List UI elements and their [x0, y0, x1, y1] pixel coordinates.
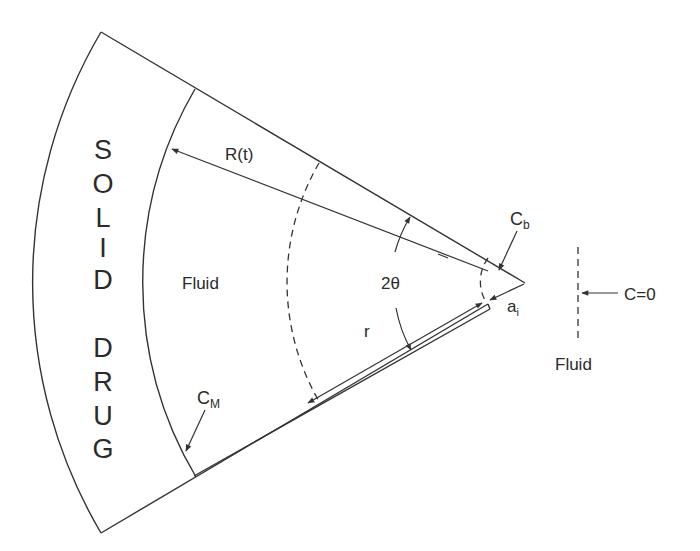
radius-r-dashed-arc — [287, 163, 320, 403]
solid-drug-label: S O L I D D R U G — [92, 135, 113, 464]
letter-I: I — [99, 233, 107, 263]
wedge-diagram: S O L I D D R U G Fluid Fluid R(t) r 2θ … — [0, 0, 700, 551]
matrix-conc-base: C — [197, 388, 210, 408]
wedge-upper-edge — [101, 32, 525, 283]
letter-R: R — [93, 367, 113, 397]
letter-D2: D — [93, 333, 113, 363]
wedge-lower-edge-tip — [488, 304, 490, 309]
wedge-lower-inner-edge — [194, 309, 490, 476]
radius-r-arrow — [308, 303, 482, 403]
boundary-condition-label: C=0 — [624, 285, 656, 304]
letter-S: S — [94, 135, 112, 165]
outer-arc — [33, 32, 101, 533]
letter-G: G — [92, 434, 113, 464]
tip-radius-label: ai — [507, 297, 519, 318]
letter-D: D — [93, 265, 113, 295]
letter-L: L — [95, 203, 110, 233]
matrix-conc-sub: M — [210, 397, 220, 411]
angle-label: 2θ — [381, 274, 400, 293]
tip-radius-sub: i — [516, 306, 518, 318]
letter-U: U — [93, 401, 113, 431]
fluid-inner-label: Fluid — [182, 274, 219, 293]
bulk-conc-arrow — [499, 231, 517, 270]
matrix-conc-label: CM — [197, 388, 220, 411]
bulk-conc-label: Cb — [510, 209, 530, 232]
matrix-conc-arrow — [186, 410, 205, 451]
bulk-conc-sub: b — [523, 218, 530, 232]
fluid-outer-label: Fluid — [555, 355, 592, 374]
angle-arc-lower — [396, 308, 411, 350]
letter-O: O — [92, 169, 113, 199]
angle-arc-upper — [395, 217, 410, 252]
radius-r-label: r — [364, 322, 370, 341]
bulk-conc-base: C — [510, 209, 523, 229]
radius-Rt-label: R(t) — [225, 145, 253, 164]
tip-dashed-arc — [480, 258, 488, 302]
